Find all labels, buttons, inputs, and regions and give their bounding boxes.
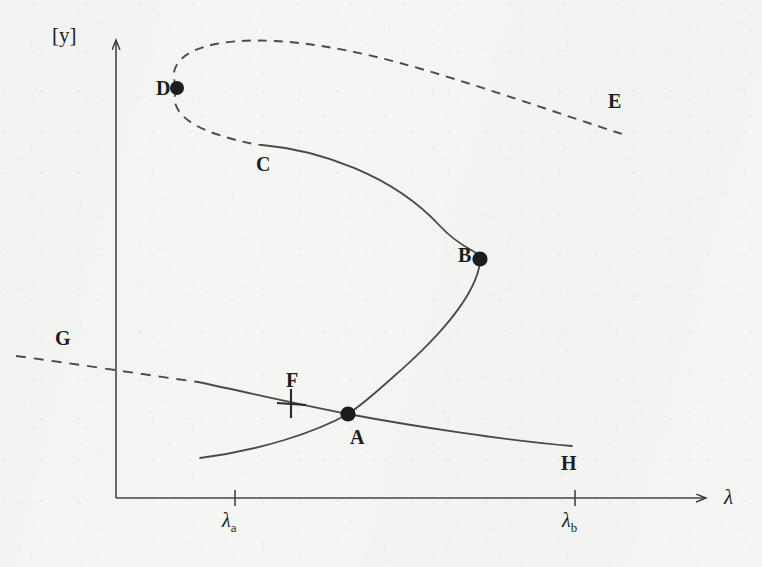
dashed-loop-lower-branch: [175, 88, 262, 145]
x-tick-label-lambda-b: λb: [562, 510, 577, 534]
point-label-B: B: [458, 245, 471, 265]
lambda-a-sub: a: [231, 520, 237, 535]
lambda-a-base: λ: [222, 509, 231, 531]
s-branch-path: [200, 145, 480, 458]
point-A-dot: [340, 406, 355, 421]
point-label-G: G: [55, 328, 71, 348]
lower-branch-solid-FAH: [198, 382, 572, 446]
point-F-cross-tick: [277, 389, 306, 418]
point-label-H: H: [561, 453, 577, 473]
y-axis-label: [y]: [52, 25, 77, 46]
curve-s-shaped-branch: [200, 145, 480, 458]
curve-upper-dashed-loop: [174, 40, 622, 145]
x-axis-label: λ: [724, 487, 733, 508]
dashed-loop-upper-branch: [174, 40, 622, 134]
lower-branch-dashed-G: [16, 356, 198, 382]
point-D-dot: [170, 81, 184, 95]
point-label-F: F: [286, 370, 298, 390]
point-label-E: E: [608, 91, 621, 111]
point-label-A: A: [350, 427, 364, 447]
point-B-dot: [472, 251, 487, 266]
x-tick-label-lambda-a: λa: [222, 510, 236, 534]
point-label-D: D: [156, 78, 170, 98]
point-label-C: C: [256, 154, 270, 174]
bifurcation-figure: [y] λ λa λb A B C D E F G H: [0, 0, 762, 567]
lambda-b-base: λ: [562, 509, 571, 531]
plot-canvas: [0, 0, 762, 567]
marker-group: [170, 81, 488, 422]
lambda-b-sub: b: [571, 520, 578, 535]
